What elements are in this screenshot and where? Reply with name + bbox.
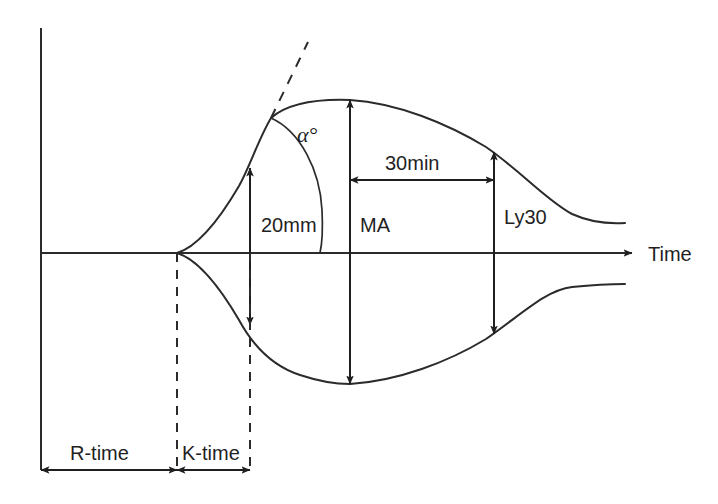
- alpha-angle-label: α°: [297, 122, 318, 147]
- teg-diagram: Time α° 20mm MA 30min Ly30 R-time K-time: [0, 0, 718, 504]
- maximum-amplitude-label: MA: [360, 214, 391, 236]
- lower-trace-curve: [177, 253, 625, 384]
- lysis-30-label: Ly30: [504, 206, 547, 228]
- kinetics-time-label: K-time: [182, 442, 240, 464]
- teg-svg-canvas: Time α° 20mm MA 30min Ly30 R-time K-time: [0, 0, 718, 504]
- amplitude-20mm-label: 20mm: [261, 214, 317, 236]
- lysis-interval-label: 30min: [385, 152, 439, 174]
- upper-trace-curve: [177, 100, 625, 253]
- time-axis-label: Time: [648, 243, 692, 265]
- reaction-time-label: R-time: [70, 442, 129, 464]
